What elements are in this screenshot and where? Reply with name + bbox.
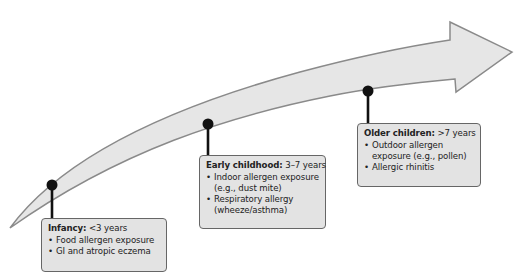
stage-label: Infancy: <box>48 223 86 233</box>
stage-item: Indoor allergen exposure (e.g., dust mit… <box>206 172 319 194</box>
stage-items: Outdoor allergen exposure (e.g., pollen)… <box>364 140 474 173</box>
stage-item: Allergic rhinitis <box>364 162 474 173</box>
stage-box-infancy: Infancy: <3 years Food allergen exposure… <box>41 218 167 272</box>
stage-item: Outdoor allergen exposure (e.g., pollen) <box>364 140 474 162</box>
stage-item: Food allergen exposure <box>48 235 160 246</box>
stage-item: GI and atropic eczema <box>48 246 160 257</box>
milestone-dot-early-childhood <box>203 119 214 130</box>
milestone-dot-older-children <box>363 86 374 97</box>
stage-box-older-children: Older children: >7 years Outdoor allerge… <box>357 123 481 187</box>
stage-box-early-childhood: Early childhood: 3–7 years Indoor allerg… <box>199 155 326 229</box>
milestone-dot-infancy <box>47 180 58 191</box>
stage-range: >7 years <box>437 128 475 138</box>
stage-title: Older children: >7 years <box>364 128 474 139</box>
stage-title: Early childhood: 3–7 years <box>206 160 319 171</box>
stage-item: Respiratory allergy (wheeze/asthma) <box>206 194 319 216</box>
stage-range: <3 years <box>89 223 127 233</box>
stage-title: Infancy: <3 years <box>48 223 160 234</box>
stage-range: 3–7 years <box>285 160 326 170</box>
stage-label: Older children: <box>364 128 435 138</box>
stage-label: Early childhood: <box>206 160 283 170</box>
stage-items: Indoor allergen exposure (e.g., dust mit… <box>206 172 319 216</box>
stage-items: Food allergen exposure GI and atropic ec… <box>48 235 160 257</box>
allergy-timeline-diagram: Infancy: <3 years Food allergen exposure… <box>0 0 518 274</box>
